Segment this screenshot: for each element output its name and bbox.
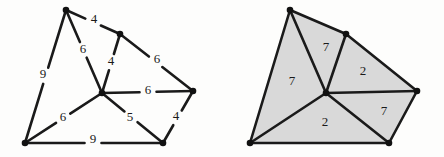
graph-vertex [386, 140, 393, 147]
graph-vertex [247, 140, 254, 147]
face-label: 7 [289, 73, 296, 88]
face-label: 7 [381, 103, 388, 118]
graph-vertex [63, 7, 70, 14]
graph-edge [182, 91, 193, 111]
graph-edge [162, 67, 193, 91]
face-label: 2 [360, 63, 367, 78]
graph-edge [157, 91, 193, 92]
graph-edge [120, 34, 149, 57]
graph-vertex [22, 140, 29, 147]
graph-edge [138, 122, 163, 143]
edge-weight-label: 5 [127, 109, 134, 124]
figure-container: 77227 4694666549 [0, 0, 444, 157]
graph-vertex [117, 31, 124, 38]
edge-weight-label: 6 [60, 109, 67, 124]
graph-vertex [190, 88, 197, 95]
graph-edge [87, 58, 102, 93]
graph-vertex [343, 31, 350, 38]
edge-weight-label: 6 [145, 82, 152, 97]
face-label: 7 [323, 39, 330, 54]
graph-vertex [287, 7, 294, 14]
left-graph-edges [25, 10, 193, 143]
graph-edge [102, 92, 140, 93]
graph-vertex [323, 90, 330, 97]
graph-edge [102, 93, 124, 111]
edge-weight-label: 4 [108, 53, 115, 68]
edge-weight-label: 6 [154, 51, 161, 66]
graph-vertex [160, 140, 167, 147]
graphs-svg: 77227 4694666549 [0, 0, 444, 157]
face-label: 2 [322, 114, 329, 129]
graph-edge [70, 93, 102, 114]
edge-weight-label: 9 [40, 66, 47, 81]
graph-vertex [414, 88, 421, 95]
graph-vertex [99, 90, 106, 97]
graph-edge [48, 10, 66, 68]
graph-edge [102, 70, 109, 93]
edge-weight-label: 4 [91, 11, 98, 26]
edge-weight-label: 4 [173, 108, 180, 123]
edge-weight-label: 9 [90, 131, 97, 146]
left-graph-vertices [22, 7, 197, 147]
edge-weight-label: 6 [80, 41, 87, 56]
